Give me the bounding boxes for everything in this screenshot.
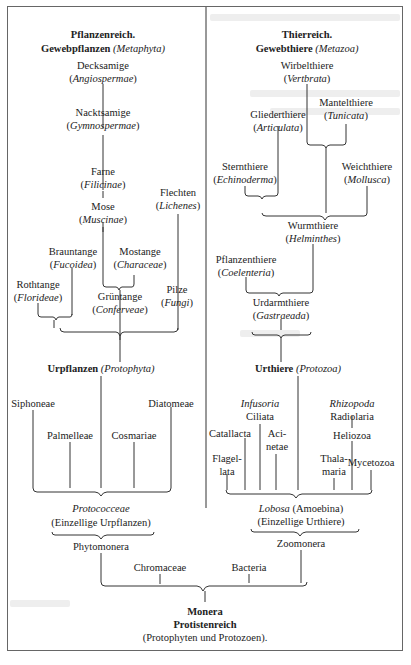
node-ciliata: Ciliata xyxy=(246,410,274,423)
node-muscinae: Mose(Muscinae) xyxy=(79,200,127,226)
node-filicinae: Farne(Filicinae) xyxy=(81,165,126,191)
plant-kingdom-subtitle: Gewebpflanzen (Metaphyta) xyxy=(41,42,165,55)
node-protisten-desc: (Protophyten und Protozoen). xyxy=(143,631,268,644)
node-florideae: Rothtange(Florideae) xyxy=(14,278,62,304)
node-palmelleae: Palmelleae xyxy=(47,429,93,442)
node-helminthes: Wurmthiere(Helminthes) xyxy=(286,219,341,245)
node-monera: Monera xyxy=(187,605,223,618)
node-diatomeae: Diatomeae xyxy=(148,397,193,410)
node-phytomonera: Phytomonera xyxy=(73,540,129,553)
node-coelenteria: Pflanzenthiere(Coelenteria) xyxy=(216,253,277,279)
node-rhizopoda: Rhizopoda xyxy=(330,397,375,410)
node-articulata: Gliederthiere(Articulata) xyxy=(250,108,305,134)
node-lobosa: Lobosa (Amoebina) xyxy=(259,502,343,515)
node-protococceae-desc: (Einzellige Urpflanzen) xyxy=(51,516,150,529)
node-thalamaria: Thala-maria xyxy=(320,452,347,478)
plant-kingdom-title: Pflanzenreich. xyxy=(71,28,135,41)
node-flagellata: Flagel-lata xyxy=(212,452,242,478)
node-tunicata: Mantelthiere(Tunicata) xyxy=(319,96,373,122)
node-gymnospermae: Nacktsamige(Gymnospermae) xyxy=(67,106,140,132)
node-protozoa: Urthiere (Protozoa) xyxy=(255,362,341,375)
node-lichenes: Flechten(Lichenes) xyxy=(156,186,200,212)
metazoa-latin: (Metazoa) xyxy=(315,43,358,54)
node-gastraeada: Urdarmthiere(Gastraeada) xyxy=(253,296,310,322)
node-siphoneae: Siphoneae xyxy=(11,397,55,410)
node-infusoria: Infusoria xyxy=(241,397,280,410)
node-mycetozoa: Mycetozoa xyxy=(348,456,395,469)
node-bacteria: Bacteria xyxy=(232,561,267,574)
node-characeae: Mostange(Characeae) xyxy=(113,245,166,271)
node-angiospermae: Decksamige(Angiospermae) xyxy=(69,59,137,85)
metaphyta-latin: (Metaphyta) xyxy=(113,43,165,54)
node-protococceae: Protococceae xyxy=(72,502,129,515)
node-acinetae: Aci-netae xyxy=(266,427,288,453)
node-heliozoa: Heliozoa xyxy=(333,429,371,442)
node-radiolaria: Radiolaria xyxy=(330,410,374,423)
metaphyta-label: Gewebpflanzen xyxy=(41,43,110,54)
node-zoomonera: Zoomonera xyxy=(277,537,325,550)
node-fucoidea: Brauntange(Fucoidea) xyxy=(49,245,97,271)
metazoa-label: Gewebthiere xyxy=(256,43,313,54)
animal-kingdom-subtitle: Gewebthiere (Metazoa) xyxy=(256,42,359,55)
node-catallacta: Catallacta xyxy=(209,427,251,440)
node-protophyta: Urpflanzen (Protophyta) xyxy=(47,362,154,375)
node-cosmariae: Cosmariae xyxy=(112,429,157,442)
node-fungi: Pilze(Fungi) xyxy=(161,283,193,309)
node-conferveae: Grüntange(Conferveae) xyxy=(92,290,147,316)
node-echinoderma: Sternthiere(Echinoderma) xyxy=(213,160,277,186)
node-mollusca: Weichthiere(Mollusca) xyxy=(342,160,392,186)
node-lobosa-desc: (Einzellige Urthiere) xyxy=(257,515,344,528)
node-vertbrata: Wirbelthiere(Vertbrata) xyxy=(281,59,334,85)
animal-kingdom-title: Thierreich. xyxy=(282,28,332,41)
node-protistenreich: Protistenreich xyxy=(173,618,236,631)
node-chromaceae: Chromaceae xyxy=(134,561,186,574)
